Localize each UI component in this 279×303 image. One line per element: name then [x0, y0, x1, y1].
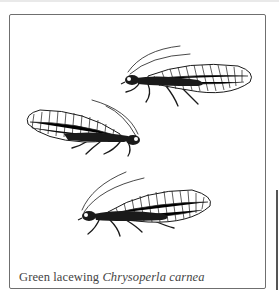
caption-scientific-name: Chrysoperla carnea — [102, 270, 204, 284]
lacewing-illustration-bottom — [74, 166, 216, 238]
lacewing-illustration-middle — [24, 96, 148, 160]
top-divider — [0, 0, 279, 2]
caption-common-name: Green lacewing — [19, 270, 99, 284]
figure-caption: Green lacewing Chrysoperla carnea — [19, 270, 205, 285]
right-edge-line — [276, 190, 278, 290]
